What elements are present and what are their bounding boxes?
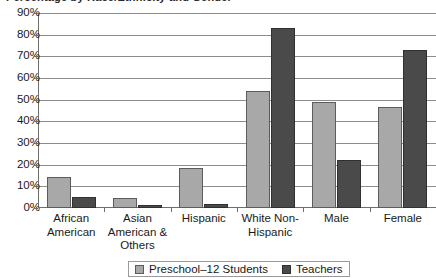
chart-legend: Preschool–12 StudentsTeachers	[128, 261, 350, 277]
gridline	[38, 186, 436, 187]
x-axis-category-label: Hispanic	[171, 212, 237, 226]
y-axis-tick-mark	[34, 143, 38, 144]
bar-students	[179, 168, 203, 208]
legend-entry: Preschool–12 Students	[135, 263, 268, 275]
bar-students	[378, 107, 402, 208]
bar-teachers	[337, 160, 361, 208]
x-axis-labels: AfricanAmericanAsianAmerican &OthersHisp…	[38, 212, 436, 254]
x-axis-category-label: AsianAmerican &Others	[104, 212, 170, 253]
bar-teachers	[138, 205, 162, 208]
bar-teachers	[271, 28, 295, 208]
gridline	[38, 35, 436, 36]
legend-swatch-teachers	[282, 265, 291, 274]
y-axis-tick-mark	[34, 121, 38, 122]
x-axis-category-label: Male	[303, 212, 369, 226]
bar-teachers	[204, 204, 228, 208]
gridline	[38, 165, 436, 166]
y-axis-tick-mark	[34, 13, 38, 14]
x-axis-label-line: African	[38, 212, 104, 226]
x-axis-label-line: White Non-	[237, 212, 303, 226]
y-axis-tick-mark	[34, 165, 38, 166]
y-axis-tick-mark	[34, 186, 38, 187]
y-axis-tick-mark	[34, 100, 38, 101]
x-axis-category-label: White Non-Hispanic	[237, 212, 303, 239]
y-axis-tick-mark	[34, 78, 38, 79]
x-axis-label-line: Male	[303, 212, 369, 226]
bar-students	[113, 198, 137, 208]
legend-label: Preschool–12 Students	[149, 263, 268, 275]
gridline	[38, 56, 436, 57]
x-axis-label-line: Hispanic	[237, 226, 303, 240]
bar-teachers	[72, 197, 96, 208]
gridline	[38, 121, 436, 122]
x-axis-label-line: Hispanic	[171, 212, 237, 226]
bar-students	[246, 91, 270, 208]
legend-swatch-students	[135, 265, 144, 274]
bar-students	[47, 177, 71, 208]
x-axis-label-line: American	[38, 226, 104, 240]
gridline	[38, 100, 436, 101]
plot-area: 90%80%70%60%50%40%30%20%10%0%	[38, 13, 436, 208]
legend-label: Teachers	[296, 263, 343, 275]
legend-entry: Teachers	[282, 263, 343, 275]
x-axis-label-line: Asian	[104, 212, 170, 226]
x-axis-label-line: Female	[370, 212, 436, 226]
gridline	[38, 13, 436, 14]
bar-students	[312, 102, 336, 208]
gridline	[38, 78, 436, 79]
x-axis-category-label: AfricanAmerican	[38, 212, 104, 239]
bar-chart: Percentage by Race/Ethnicity and Gender …	[0, 0, 436, 278]
x-axis-label-line: Others	[104, 239, 170, 253]
y-axis-tick-mark	[34, 56, 38, 57]
y-axis-tick-mark	[34, 35, 38, 36]
chart-title-clipped: Percentage by Race/Ethnicity and Gender	[6, 0, 306, 3]
gridline	[38, 143, 436, 144]
bar-teachers	[403, 50, 427, 208]
y-axis-tick-mark	[34, 208, 38, 209]
x-axis-label-line: American &	[104, 226, 170, 240]
x-axis-category-label: Female	[370, 212, 436, 226]
